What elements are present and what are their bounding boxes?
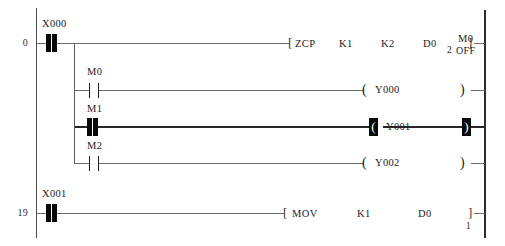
contact-x001[interactable]: [46, 204, 57, 222]
instruction-operand-mov-1[interactable]: D0: [418, 207, 432, 221]
wire-rung3-d: [471, 126, 485, 128]
instruction-open-bracket-mov: [: [283, 206, 287, 220]
contact-label-m0: M0: [87, 66, 102, 77]
monitor-value-mov: 1: [466, 221, 471, 232]
contact-m1[interactable]: [87, 118, 98, 136]
branch-vertical-connector: [74, 43, 75, 164]
wire-rung1-c: [474, 43, 485, 44]
instruction-operand-zcp-2[interactable]: D0: [423, 37, 437, 51]
right-power-rail: [484, 10, 486, 238]
monitor-state-m0: OFF: [456, 45, 475, 56]
instruction-operand-zcp-1[interactable]: K2: [381, 37, 395, 51]
step-number-19: 19: [4, 207, 28, 218]
wire-rung1-b: [57, 43, 289, 44]
monitor-device-m0-block: M0 OFF: [456, 33, 475, 56]
coil-close-paren-y001: ): [462, 118, 471, 136]
coil-close-paren-y000: ): [460, 82, 465, 98]
contact-label-m2: M2: [87, 140, 102, 151]
wire-rung3-b: [98, 126, 370, 128]
instruction-operand-mov-0[interactable]: K1: [357, 207, 371, 221]
wire-rung2-b: [99, 90, 364, 91]
wire-rung3-c: [383, 126, 463, 128]
coil-open-paren-y000: (: [362, 82, 367, 98]
instruction-mnemonic-zcp[interactable]: ZCP: [295, 37, 315, 51]
contact-label-m1: M1: [87, 103, 102, 114]
coil-open-paren-y002: (: [362, 155, 367, 171]
coil-open-paren-y001: (: [369, 118, 378, 136]
contact-label-x001: X001: [42, 188, 67, 199]
instruction-close-bracket-zcp: ]: [468, 36, 472, 50]
instruction-open-bracket-zcp: [: [288, 36, 292, 50]
instruction-operand-zcp-0[interactable]: K1: [339, 37, 353, 51]
wire-rung4-c: [471, 163, 485, 164]
step-number-0: 0: [4, 37, 28, 48]
ladder-diagram: 0 X000 [ ZCP K1 K2 D0 2 M0 OFF ] M0 ( Y0…: [0, 0, 505, 246]
contact-x000[interactable]: [46, 34, 57, 52]
monitor-value-zcp: 2: [447, 45, 452, 56]
monitor-device-m0: M0: [456, 33, 475, 45]
wire-rung5-b: [57, 213, 284, 214]
coil-label-y000: Y000: [375, 82, 400, 98]
wire-rung2-c: [471, 90, 485, 91]
coil-close-paren-y002: ): [460, 155, 465, 171]
wire-rung4-b: [99, 163, 364, 164]
instruction-mnemonic-mov[interactable]: MOV: [292, 207, 318, 221]
coil-label-y002: Y002: [375, 155, 400, 171]
instruction-close-bracket-mov: ]: [468, 206, 472, 220]
contact-label-x000: X000: [42, 18, 67, 29]
wire-rung5-c: [474, 213, 485, 214]
